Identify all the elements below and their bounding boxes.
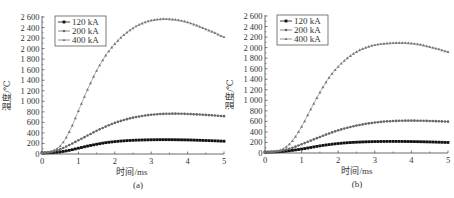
200ka-marker-icon xyxy=(220,115,223,118)
200ka-marker-icon xyxy=(92,131,95,134)
chart-panel-b: 02004006008001 0001 2001 4001 6001 8002 … xyxy=(224,11,450,189)
400ka-marker-icon xyxy=(318,91,321,94)
120ka-marker-icon xyxy=(220,140,223,143)
200ka-marker-icon xyxy=(138,115,141,118)
x-axis-title: 时间/ms xyxy=(341,165,373,176)
x-tick-label: 1 xyxy=(76,156,80,166)
chart-panel-a: 02004006008001 0001 2001 4001 6001 8002 … xyxy=(1,12,226,190)
400ka-marker-icon xyxy=(125,31,128,34)
120ka-marker-icon xyxy=(214,139,217,142)
200ka-marker-icon xyxy=(328,132,331,135)
400ka-marker-icon xyxy=(312,102,315,105)
120ka-marker-icon xyxy=(223,140,226,143)
200ka-marker-icon xyxy=(422,120,425,123)
120ka-marker-icon xyxy=(437,141,440,144)
400ka-marker-icon xyxy=(315,96,318,99)
120ka-marker-icon xyxy=(349,141,352,144)
120ka-marker-icon xyxy=(59,150,62,153)
120ka-marker-icon xyxy=(101,142,104,145)
y-tick-label: 1 600 xyxy=(243,64,262,74)
120ka-marker-icon xyxy=(358,141,361,144)
400ka-marker-icon xyxy=(74,116,77,119)
200ka-marker-icon xyxy=(74,141,77,144)
400ka-marker-icon xyxy=(77,109,80,112)
120ka-marker-icon xyxy=(198,139,201,142)
y-tick-label: 2 200 xyxy=(20,33,39,43)
120ka-marker-icon xyxy=(386,140,389,143)
x-tick-label: 4 xyxy=(409,155,414,165)
200ka-marker-icon xyxy=(322,134,325,137)
200ka-marker-icon xyxy=(447,120,450,123)
x-tick-label: 4 xyxy=(185,156,190,166)
200ka-marker-icon xyxy=(62,147,65,150)
200ka-marker-icon xyxy=(374,121,377,124)
120ka-marker-icon xyxy=(410,140,413,143)
y-tick-label: 2 000 xyxy=(243,43,262,53)
120ka-marker-icon xyxy=(156,138,159,141)
y-tick-label: 1 400 xyxy=(20,75,39,85)
400ka-marker-icon xyxy=(297,130,300,133)
y-tick-label: 2 400 xyxy=(20,23,39,33)
200ka-marker-icon xyxy=(123,119,126,122)
200ka-marker-icon xyxy=(132,116,135,119)
200ka-marker-icon xyxy=(294,145,297,148)
200ka-marker-icon xyxy=(71,142,74,145)
120ka-marker-icon xyxy=(343,142,346,145)
120ka-marker-icon xyxy=(150,138,153,141)
120ka-marker-icon xyxy=(373,140,376,143)
200ka-marker-icon xyxy=(337,129,340,132)
200ka-marker-icon xyxy=(428,120,431,123)
200ka-marker-icon xyxy=(141,115,144,118)
120ka-marker-icon xyxy=(74,148,77,151)
120ka-marker-icon xyxy=(428,141,431,144)
200ka-marker-icon xyxy=(217,114,220,117)
120ka-marker-icon xyxy=(380,140,383,143)
120ka-marker-icon xyxy=(364,140,367,143)
120ka-marker-icon xyxy=(123,139,126,142)
200ka-marker-icon xyxy=(444,120,447,123)
y-tick-label: 200 xyxy=(27,138,40,148)
y-tick-label: 800 xyxy=(27,107,40,117)
120ka-marker-icon xyxy=(425,140,428,143)
figure: 02004006008001 0001 2001 4001 6001 8002 … xyxy=(0,0,454,198)
y-tick-label: 1 400 xyxy=(243,74,262,84)
120ka-marker-icon xyxy=(107,141,110,144)
200ka-marker-icon xyxy=(349,126,352,129)
120ka-marker-icon xyxy=(309,146,312,149)
200ka-marker-icon xyxy=(358,124,361,127)
120ka-marker-icon xyxy=(159,138,162,141)
400ka-marker-icon xyxy=(86,88,89,91)
200ka-marker-icon xyxy=(198,113,201,116)
120ka-marker-icon xyxy=(431,141,434,144)
200ka-marker-icon xyxy=(77,139,80,142)
200ka-marker-icon xyxy=(334,130,337,133)
120ka-marker-icon xyxy=(306,147,309,150)
120ka-marker-icon xyxy=(126,139,129,142)
120ka-marker-icon xyxy=(132,139,135,142)
400ka-marker-icon xyxy=(65,136,68,139)
120ka-marker-icon xyxy=(168,138,171,141)
200ka-marker-icon xyxy=(208,114,211,117)
y-tick-label: 0 xyxy=(35,149,39,159)
120ka-marker-icon xyxy=(144,139,147,142)
200ka-marker-icon xyxy=(325,133,328,136)
120ka-marker-icon xyxy=(370,140,373,143)
120ka-marker-icon xyxy=(312,146,315,149)
200ka-marker-icon xyxy=(343,127,346,130)
200ka-marker-icon xyxy=(89,133,92,136)
400ka-marker-icon xyxy=(92,75,95,78)
120ka-marker-icon xyxy=(407,140,410,143)
120ka-marker-icon xyxy=(389,140,392,143)
200ka-marker-icon xyxy=(110,123,113,126)
120ka-marker-icon xyxy=(322,144,325,147)
120ka-marker-icon xyxy=(86,145,89,148)
120ka-marker-icon xyxy=(113,140,116,143)
120ka-marker-icon xyxy=(153,138,156,141)
x-tick-label: 0 xyxy=(40,156,44,166)
200ka-marker-icon xyxy=(59,148,62,151)
120ka-marker-icon xyxy=(297,148,300,151)
200ka-marker-icon xyxy=(171,112,174,115)
y-tick-label: 1 800 xyxy=(243,53,262,63)
series-120ka xyxy=(41,138,226,154)
x-tick-label: 1 xyxy=(299,155,303,165)
